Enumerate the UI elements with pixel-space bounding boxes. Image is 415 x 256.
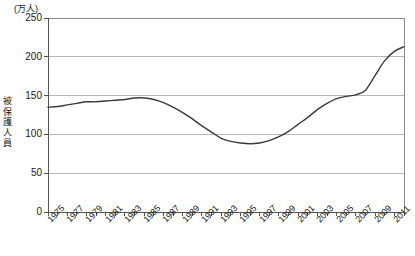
x-axis-tick-label: 1977	[65, 204, 86, 225]
x-axis-tick-label: 1997	[258, 204, 279, 225]
x-axis-tick-label: 2007	[354, 204, 375, 225]
x-axis-tick-label: 2011	[392, 204, 412, 224]
x-axis-tick-label: 2005	[335, 204, 356, 225]
x-axis-tick-label: 1999	[277, 204, 298, 225]
x-axis-tick-label: 1989	[181, 204, 202, 225]
x-axis-tick-label: 1991	[200, 204, 221, 225]
x-axis-tick-label: 1985	[142, 204, 163, 225]
x-axis-tick-label: 1981	[104, 204, 125, 225]
x-axis-tick-label: 1975	[46, 204, 67, 225]
x-axis-tick-label: 1987	[161, 204, 182, 225]
chart-container: (万人) 被保護人員 250200150100500 1975197719791…	[0, 0, 415, 256]
x-axis-tick-label: 2003	[315, 204, 336, 225]
x-axis-tick-label: 2009	[373, 204, 394, 225]
x-axis-tick-label: 1983	[123, 204, 144, 225]
x-axis-tick-label: 2001	[296, 204, 317, 225]
x-axis-tick-label: 1993	[219, 204, 240, 225]
x-axis-tick-label: 1995	[238, 204, 259, 225]
x-axis-tick-label: 1979	[84, 204, 105, 225]
x-axis-tick-labels: 1975197719791981198319851987198919911993…	[0, 0, 415, 256]
